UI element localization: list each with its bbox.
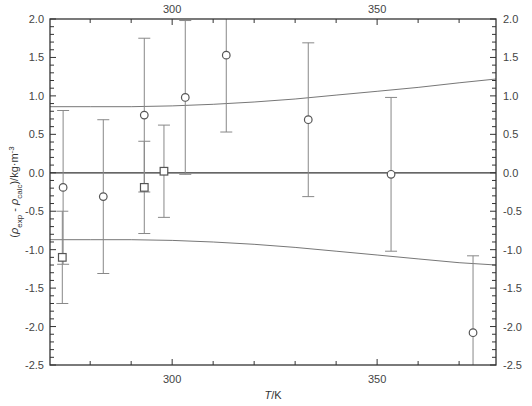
y-tick-label-left: 0.5 <box>29 128 44 140</box>
y-tick-label-left: -1.5 <box>25 282 44 294</box>
data-markers <box>58 51 476 336</box>
square-marker <box>160 167 168 175</box>
y-tick-label-right: -1.0 <box>503 244 522 256</box>
y-tick-label-left: -0.5 <box>25 205 44 217</box>
x-tick-label-bottom: 350 <box>368 373 386 385</box>
axes-frame <box>50 19 496 365</box>
y-tick-label-left: -2.0 <box>25 321 44 333</box>
y-tick-label-right: -2.0 <box>503 321 522 333</box>
y-tick-label-left: 1.0 <box>29 90 44 102</box>
square-marker <box>58 254 66 262</box>
y-tick-label-left: 0.0 <box>29 167 44 179</box>
circle-marker <box>140 111 148 119</box>
x-tick-label-bottom: 300 <box>163 373 181 385</box>
y-tick-label-right: 2.0 <box>503 13 518 25</box>
plot-frame <box>50 19 496 365</box>
y-tick-label-right: -1.5 <box>503 282 522 294</box>
circle-marker <box>469 329 477 337</box>
band-lower <box>50 240 496 265</box>
circle-marker <box>304 116 312 124</box>
y-tick-label-right: -0.5 <box>503 205 522 217</box>
tick-labels: 300300350350-2.5-2.5-2.0-2.0-1.5-1.5-1.0… <box>25 3 522 385</box>
circle-marker <box>387 171 395 179</box>
y-tick-label-left: 1.5 <box>29 51 44 63</box>
x-tick-label-top: 350 <box>368 3 386 15</box>
y-tick-label-right: 0.0 <box>503 167 518 179</box>
y-tick-label-right: 0.5 <box>503 128 518 140</box>
y-tick-label-right: 1.5 <box>503 51 518 63</box>
circle-marker <box>99 193 107 201</box>
square-marker <box>140 184 148 192</box>
x-tick-label-top: 300 <box>163 3 181 15</box>
x-axis-title: T/K <box>264 389 282 401</box>
circle-marker <box>59 184 67 192</box>
chart-svg: 300300350350-2.5-2.5-2.0-2.0-1.5-1.5-1.0… <box>0 0 532 406</box>
uncertainty-bands <box>50 79 496 265</box>
y-tick-label-right: -2.5 <box>503 359 522 371</box>
y-tick-label-left: -2.5 <box>25 359 44 371</box>
circle-marker <box>222 51 230 59</box>
band-upper <box>50 79 496 107</box>
y-tick-label-left: -1.0 <box>25 244 44 256</box>
y-axis-title: (ρexp - ρcalc)/kg·m-3 <box>7 146 24 238</box>
circle-marker <box>181 94 189 102</box>
y-tick-label-left: 2.0 <box>29 13 44 25</box>
axis-ticks <box>50 19 496 365</box>
y-tick-label-right: 1.0 <box>503 90 518 102</box>
error-bars <box>56 19 479 365</box>
